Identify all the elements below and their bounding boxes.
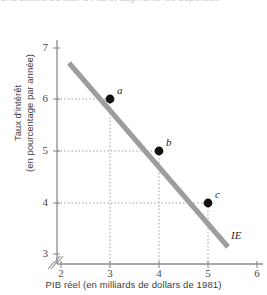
point-a bbox=[106, 95, 115, 104]
point-label-c: c bbox=[215, 188, 220, 200]
point-c bbox=[204, 199, 213, 208]
x-tick-label-6: 6 bbox=[248, 267, 266, 279]
chart-figure: Une baisse du taux d'intérêt augmente le… bbox=[0, 0, 267, 295]
y-axis-title-line-2: (en pourcentage par année) bbox=[24, 38, 36, 188]
plot-area: 7 6 5 4 3 2 3 4 5 6 a b c IE Taux d'inté… bbox=[0, 0, 267, 295]
y-tick-label-4: 4 bbox=[30, 196, 48, 208]
x-axis-title: PIB réel (en milliards de dollars de 198… bbox=[0, 279, 267, 290]
x-tick-label-4: 4 bbox=[150, 267, 168, 279]
x-tick-label-5: 5 bbox=[199, 267, 217, 279]
point-label-b: b bbox=[166, 136, 172, 148]
y-axis-title: Taux d'intérêt (en pourcentage par année… bbox=[12, 38, 46, 188]
x-tick-label-2: 2 bbox=[52, 267, 70, 279]
y-axis-title-line-1: Taux d'intérêt bbox=[12, 38, 24, 188]
guide-lines bbox=[57, 99, 208, 264]
x-tick-label-3: 3 bbox=[101, 267, 119, 279]
y-tick-label-3: 3 bbox=[30, 247, 48, 259]
point-label-a: a bbox=[117, 84, 123, 96]
point-b bbox=[155, 147, 164, 156]
ie-curve bbox=[69, 63, 228, 247]
data-points bbox=[106, 95, 213, 208]
curve-label-ie: IE bbox=[231, 229, 241, 241]
